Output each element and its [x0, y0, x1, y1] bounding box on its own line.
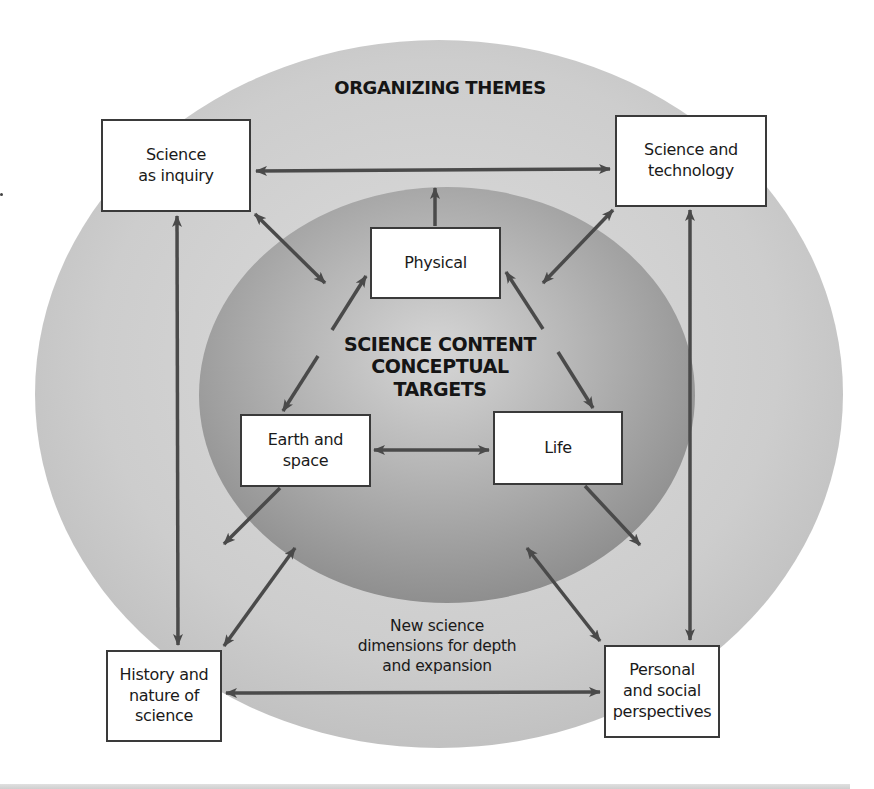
box-label: Personal and social perspectives — [613, 660, 711, 722]
box-personal-and-social-perspectives: Personal and social perspectives — [604, 645, 720, 738]
science-framework-diagram: ORGANIZING THEMES SCIENCE CONTENT CONCEP… — [0, 0, 874, 789]
stray-mark — [0, 193, 3, 196]
box-earth-and-space: Earth and space — [240, 414, 371, 487]
arrow-history-personal — [226, 692, 600, 693]
science-content-title: SCIENCE CONTENT CONCEPTUAL TARGETS — [320, 333, 560, 400]
box-label: History and nature of science — [120, 665, 209, 727]
box-physical: Physical — [370, 227, 501, 299]
box-label: Earth and space — [268, 430, 343, 472]
organizing-themes-title: ORGANIZING THEMES — [300, 77, 580, 98]
box-life: Life — [493, 411, 623, 485]
box-label: Life — [544, 438, 572, 459]
box-label: Physical — [404, 253, 467, 274]
box-label: Science and technology — [644, 140, 738, 182]
new-dimensions-caption: New science dimensions for depth and exp… — [282, 616, 592, 676]
box-history-and-nature-of-science: History and nature of science — [106, 650, 222, 742]
bottom-divider — [0, 784, 850, 789]
box-science-as-inquiry: Science as inquiry — [101, 119, 251, 212]
arrow-inquiry-technology — [256, 169, 610, 171]
box-science-and-technology: Science and technology — [615, 115, 767, 207]
box-label: Science as inquiry — [138, 145, 214, 187]
arrow-inquiry-history — [177, 216, 178, 645]
